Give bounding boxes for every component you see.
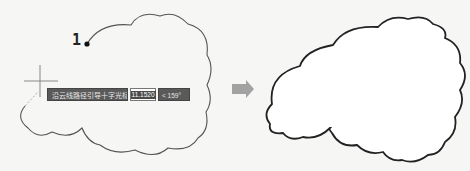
length-input-value[interactable]: 11.1520	[131, 91, 156, 99]
rubber-band-line	[25, 92, 38, 106]
angle-field[interactable]: < 159°	[158, 88, 190, 101]
drawing-canvas[interactable]	[0, 0, 470, 171]
revision-cloud-in-progress	[21, 14, 211, 154]
dynamic-input-tooltip: 沿云线路径引导十字光标... 11.1520 < 159°	[47, 88, 190, 101]
start-point-dot-icon	[84, 41, 89, 46]
command-prompt-text: 沿云线路径引导十字光标...	[47, 88, 128, 101]
right-arrow-icon	[232, 80, 254, 98]
length-input-field[interactable]: 11.1520	[130, 88, 156, 101]
step-number-label: 1	[72, 31, 81, 49]
revision-cloud-completed	[266, 17, 465, 161]
